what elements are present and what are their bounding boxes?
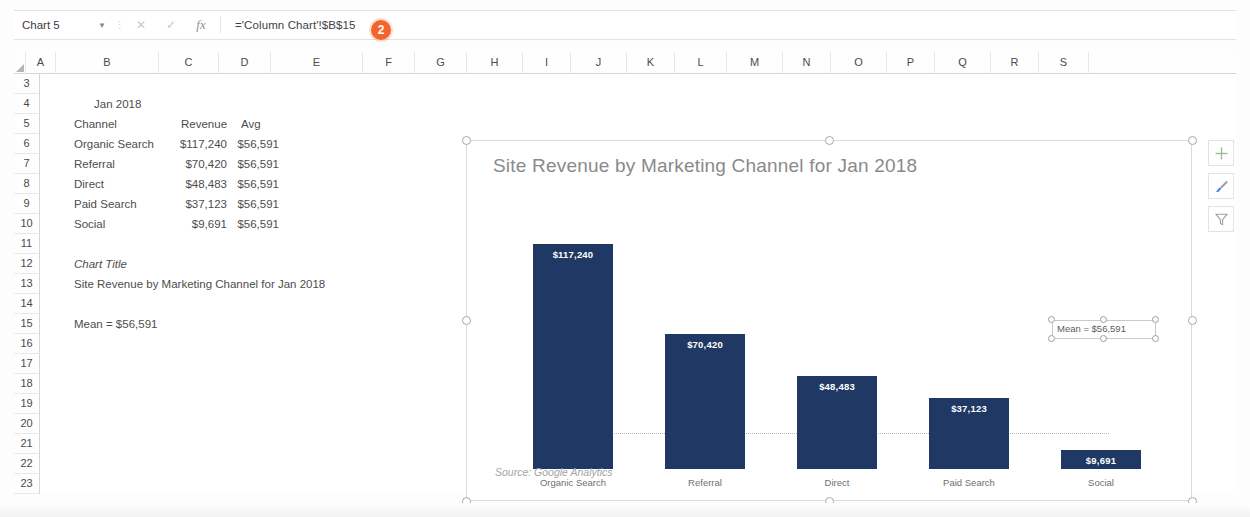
select-all-corner[interactable] — [14, 52, 26, 74]
row-header-12[interactable]: 12 — [14, 254, 40, 274]
formula-bar-divider-icon: ⋮ — [112, 11, 126, 39]
chart-category-label: Paid Search — [909, 477, 1029, 488]
chart-handle-tr[interactable] — [1188, 136, 1197, 145]
fx-icon[interactable]: fx — [186, 11, 216, 39]
cell-channel-1: Referral — [74, 154, 115, 174]
column-header-c[interactable]: C — [159, 52, 219, 74]
row-header-15[interactable]: 15 — [14, 314, 40, 334]
row-header-19[interactable]: 19 — [14, 394, 40, 414]
row-header-9[interactable]: 9 — [14, 194, 40, 214]
chart-bar[interactable] — [665, 334, 745, 469]
cell-header-avg: Avg — [241, 114, 261, 134]
chart-bar-label: $117,240 — [533, 249, 613, 260]
chart-handle-mr[interactable] — [1188, 316, 1197, 325]
paintbrush-icon — [1214, 179, 1229, 194]
cell-avg-1: $56,591 — [233, 154, 285, 174]
cancel-icon[interactable]: ✕ — [126, 11, 156, 39]
row-header-21[interactable]: 21 — [14, 434, 40, 454]
chart-bar-label: $37,123 — [929, 403, 1009, 414]
row-header-4[interactable]: 4 — [14, 94, 40, 114]
textbox-handle-tl[interactable] — [1048, 316, 1055, 323]
row-header-11[interactable]: 11 — [14, 234, 40, 254]
excel-window: Chart 5 ▼ ⋮ ✕ ✓ fx ='Column Chart'!$B$15… — [0, 0, 1250, 517]
column-header-l[interactable]: L — [675, 52, 727, 74]
cell-channel-2: Direct — [74, 174, 104, 194]
worksheet-grid: ABCDEFGHIJKLMNOPQRS 34567891011121314151… — [14, 52, 1236, 492]
enter-icon[interactable]: ✓ — [156, 11, 186, 39]
chevron-down-icon[interactable]: ▼ — [92, 11, 112, 39]
column-header-q[interactable]: Q — [935, 52, 991, 74]
row-header-6[interactable]: 6 — [14, 134, 40, 154]
textbox-handle-br[interactable] — [1152, 335, 1159, 342]
column-header-n[interactable]: N — [783, 52, 831, 74]
column-header-f[interactable]: F — [363, 52, 415, 74]
row-header-17[interactable]: 17 — [14, 354, 40, 374]
chart-category-label: Referral — [645, 477, 765, 488]
cell-revenue-2: $48,483 — [173, 174, 233, 194]
chart-category-label: Direct — [777, 477, 897, 488]
callout-badge-2: 2 — [371, 20, 391, 40]
cell-channel-0: Organic Search — [74, 134, 154, 154]
plus-icon — [1214, 146, 1229, 161]
chart-bar[interactable] — [533, 244, 613, 469]
cell-channel-4: Social — [74, 214, 105, 234]
row-header-5[interactable]: 5 — [14, 114, 40, 134]
chart-elements-button[interactable] — [1208, 140, 1234, 166]
row-header-18[interactable]: 18 — [14, 374, 40, 394]
column-header-a[interactable]: A — [26, 52, 56, 74]
divider — [220, 16, 221, 34]
cell-header-channel: Channel — [74, 114, 117, 134]
row-header-7[interactable]: 7 — [14, 154, 40, 174]
chart-category-label: Social — [1041, 477, 1161, 488]
column-header-m[interactable]: M — [727, 52, 783, 74]
name-box[interactable]: Chart 5 — [14, 11, 92, 39]
cell-avg-0: $56,591 — [233, 134, 285, 154]
cell-revenue-1: $70,420 — [173, 154, 233, 174]
chart-tool-buttons — [1208, 140, 1234, 239]
textbox-handle-bc[interactable] — [1100, 335, 1107, 342]
cell-avg-2: $56,591 — [233, 174, 285, 194]
cell-chart-title-label: Chart Title — [74, 254, 127, 274]
chart-filters-button[interactable] — [1208, 206, 1234, 232]
chart-styles-button[interactable] — [1208, 173, 1234, 199]
cell-chart-title-value: Site Revenue by Marketing Channel for Ja… — [74, 274, 325, 294]
column-header-r[interactable]: R — [991, 52, 1039, 74]
textbox-handle-bl[interactable] — [1048, 335, 1055, 342]
column-header-i[interactable]: I — [523, 52, 571, 74]
row-header-14[interactable]: 14 — [14, 294, 40, 314]
column-header-b[interactable]: B — [56, 52, 159, 74]
column-header-o[interactable]: O — [831, 52, 887, 74]
row-header-8[interactable]: 8 — [14, 174, 40, 194]
cell-month-label: Jan 2018 — [94, 94, 141, 114]
chart-bar-label: $70,420 — [665, 339, 745, 350]
column-header-k[interactable]: K — [627, 52, 675, 74]
cell-header-revenue: Revenue — [181, 114, 227, 134]
column-header-g[interactable]: G — [415, 52, 467, 74]
column-header-h[interactable]: H — [467, 52, 523, 74]
row-header-13[interactable]: 13 — [14, 274, 40, 294]
row-header-22[interactable]: 22 — [14, 454, 40, 474]
chart-bar-label: $48,483 — [797, 381, 877, 392]
chart-handle-ml[interactable] — [462, 316, 471, 325]
formula-bar: Chart 5 ▼ ⋮ ✕ ✓ fx ='Column Chart'!$B$15 — [14, 10, 1236, 40]
mean-textbox-label: Mean = $56,591 — [1057, 323, 1126, 334]
column-header-e[interactable]: E — [271, 52, 363, 74]
column-header-s[interactable]: S — [1039, 52, 1089, 74]
column-header-d[interactable]: D — [219, 52, 271, 74]
cell-revenue-4: $9,691 — [173, 214, 233, 234]
row-header-10[interactable]: 10 — [14, 214, 40, 234]
row-header-3[interactable]: 3 — [14, 74, 40, 94]
textbox-handle-tc[interactable] — [1100, 316, 1107, 323]
cell-channel-3: Paid Search — [74, 194, 137, 214]
textbox-handle-tr[interactable] — [1152, 316, 1159, 323]
row-header-20[interactable]: 20 — [14, 414, 40, 434]
column-header-j[interactable]: J — [571, 52, 627, 74]
chart-source-note: Source: Google Analytics — [495, 466, 613, 478]
column-header-p[interactable]: P — [887, 52, 935, 74]
chart-handle-tl[interactable] — [462, 136, 471, 145]
cell-revenue-0: $117,240 — [173, 134, 233, 154]
row-header-16[interactable]: 16 — [14, 334, 40, 354]
row-header-23[interactable]: 23 — [14, 474, 40, 494]
chart-handle-tc[interactable] — [825, 136, 834, 145]
cell-avg-3: $56,591 — [233, 194, 285, 214]
